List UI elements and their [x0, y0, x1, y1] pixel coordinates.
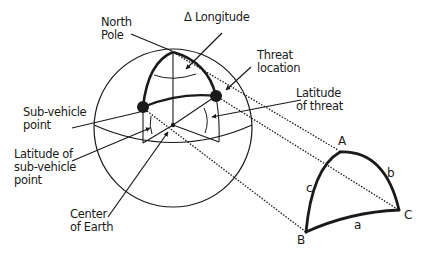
vertex-c-label: C: [404, 209, 412, 222]
meridians: [143, 52, 219, 143]
threat-location-label: Threat location: [257, 49, 300, 75]
projection-lines: [147, 54, 399, 232]
north-pole-label: North Pole: [101, 16, 132, 42]
latitude-of-sub-vehicle-label: Latitude of sub-vehicle point: [14, 148, 76, 187]
center-of-earth-label: Center of Earth: [70, 208, 113, 234]
threat-location-dot: [210, 90, 222, 102]
vertex-b-label: B: [297, 234, 305, 247]
side-c-label: c: [306, 182, 313, 195]
spherical-triangle: [306, 152, 399, 232]
sub-vehicle-point-label: Sub-vehicle point: [23, 106, 86, 132]
side-a: [306, 210, 399, 232]
center-of-earth-dot: [171, 123, 175, 127]
side-b: [340, 152, 399, 210]
latitude-of-threat-label: Latitude of threat: [296, 87, 343, 113]
side-a-label: a: [354, 219, 361, 232]
delta-longitude-label: Δ Longitude: [184, 11, 249, 24]
earth-sphere: [94, 49, 252, 207]
vertex-a-label: A: [338, 135, 346, 148]
side-b-label: b: [387, 167, 395, 180]
